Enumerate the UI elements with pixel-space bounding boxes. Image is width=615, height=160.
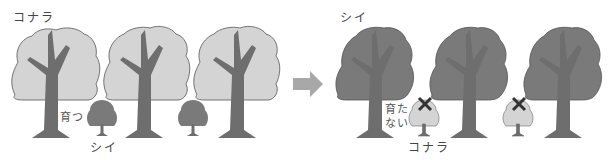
left-title: コナラ xyxy=(13,8,55,25)
shii-sapling-2 xyxy=(178,100,208,136)
grow-label: 育つ xyxy=(60,108,84,124)
shii-sapling-1 xyxy=(87,100,117,136)
succession-diagram xyxy=(0,0,615,160)
left-sapling-label: シイ xyxy=(90,138,118,155)
right-sapling-label: コナラ xyxy=(408,138,450,155)
shii-tree-3 xyxy=(524,27,602,138)
konara-tree-2 xyxy=(104,26,190,138)
not-grow-label-2: ない xyxy=(385,114,409,130)
konara-tree-1 xyxy=(12,28,100,138)
arrow-right-icon xyxy=(293,71,323,97)
shii-tree-2 xyxy=(430,27,508,138)
right-title: シイ xyxy=(340,8,368,25)
